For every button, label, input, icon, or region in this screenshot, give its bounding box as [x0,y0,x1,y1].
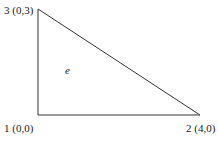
node-2-label: 2 (4,0) [186,122,215,134]
node-1-label: 1 (0,0) [4,122,33,134]
edge-2-3 [38,9,200,115]
node-3-label: 3 (0,3) [4,4,33,16]
element-label: e [65,64,70,76]
